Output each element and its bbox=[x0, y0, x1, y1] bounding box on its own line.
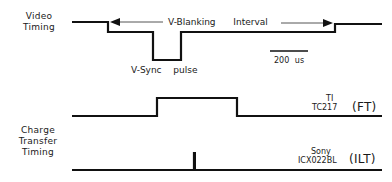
v-sync-pulse-label: V-Sync pulse bbox=[131, 65, 197, 75]
ft-part-label: TC217 bbox=[312, 103, 337, 113]
ft-type-label: (FT) bbox=[352, 101, 377, 113]
ilt-type-label: (ILT) bbox=[349, 153, 376, 165]
v-blanking-label-left: V-Blanking bbox=[168, 17, 216, 27]
video-timing-label: Video Timing bbox=[14, 11, 64, 33]
video-timing-label-line1: Video bbox=[14, 11, 64, 22]
v-sync-label-left: V-Sync bbox=[131, 65, 162, 75]
v-sync-label-right: pulse bbox=[173, 65, 197, 75]
charge-transfer-label-line1: Charge bbox=[10, 125, 66, 136]
arrow-right-icon bbox=[323, 19, 333, 27]
charge-transfer-label-line3: Timing bbox=[10, 147, 66, 158]
scale-bar-label: 200 us bbox=[274, 56, 304, 66]
charge-transfer-label: Charge Transfer Timing bbox=[10, 125, 66, 158]
arrow-left-icon bbox=[110, 18, 120, 26]
ilt-part-label: ICX022BL bbox=[298, 156, 337, 166]
video-timing-label-line2: Timing bbox=[14, 22, 64, 33]
video-timing-waveform bbox=[72, 22, 382, 60]
v-blanking-label: V-Blanking Interval bbox=[168, 17, 268, 27]
v-blanking-label-right: Interval bbox=[233, 17, 267, 27]
charge-transfer-label-line2: Transfer bbox=[10, 136, 66, 147]
